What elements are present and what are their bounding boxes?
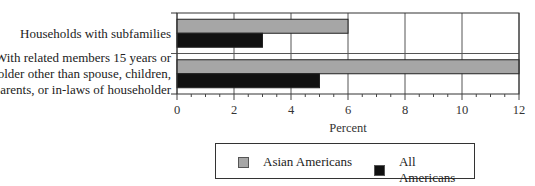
bar-all-americans-1	[177, 74, 320, 88]
legend-label: All Americans	[399, 154, 474, 186]
category-label: older other than spouse, children,	[0, 66, 171, 81]
category-labels: Households with subfamiliesWith related …	[0, 26, 172, 98]
x-axis-ticks: 024681012	[174, 94, 525, 117]
category-label: parents, or in-laws of householder	[0, 82, 172, 97]
legend-item-asian-americans: Asian Americans	[238, 154, 352, 170]
x-tick-label: 10	[456, 103, 469, 117]
bar-all-americans-0	[177, 33, 263, 47]
category-label: With related members 15 years or	[0, 50, 172, 65]
legend-label: Asian Americans	[263, 154, 352, 170]
x-tick-label: 4	[288, 103, 295, 117]
x-tick-label: 8	[402, 103, 408, 117]
bar-asian-americans-1	[177, 60, 519, 74]
legend-swatch-all-americans	[374, 165, 385, 176]
legend-swatch-asian-americans	[238, 157, 249, 168]
legend: Asian Americans All Americans	[215, 143, 475, 179]
legend-item-all-americans: All Americans	[374, 154, 474, 186]
bar-chart: Households with subfamiliesWith related …	[0, 0, 535, 140]
bar-asian-americans-0	[177, 19, 348, 33]
x-tick-label: 0	[174, 103, 180, 117]
x-tick-label: 2	[231, 103, 237, 117]
x-axis-title: Percent	[329, 121, 367, 135]
x-tick-label: 6	[345, 103, 351, 117]
x-tick-label: 12	[513, 103, 526, 117]
category-label: Households with subfamilies	[20, 26, 171, 41]
